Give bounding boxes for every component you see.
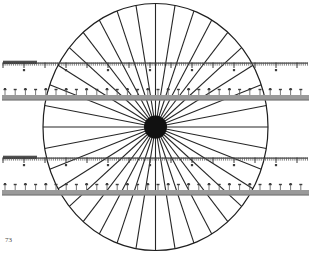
ruler-label-dot xyxy=(188,183,190,185)
ruler-tick-cap xyxy=(55,184,58,185)
ruler-label-dot xyxy=(290,183,292,185)
ruler-label-dot xyxy=(147,88,149,90)
ruler-tick-cap xyxy=(14,89,17,90)
ruler-label-dot xyxy=(233,164,235,166)
ruler-label-dot xyxy=(23,69,25,71)
ruler-tick-cap xyxy=(157,89,160,90)
ruler-tick-cap xyxy=(238,89,241,90)
ruler-label-dot xyxy=(167,183,169,185)
figure-page: 73 xyxy=(0,0,311,254)
ruler-tick-cap xyxy=(95,89,98,90)
ruler-label-dot xyxy=(65,88,67,90)
ruler-tick-cap xyxy=(55,89,58,90)
ruler-label-dot xyxy=(4,88,6,90)
ruler-label-dot xyxy=(249,88,251,90)
ruler-tick-cap xyxy=(259,184,262,185)
ruler-label-dot xyxy=(191,164,193,166)
ruler-label-dot xyxy=(228,88,230,90)
ruler-tick-cap xyxy=(177,89,180,90)
ruler-label-dot xyxy=(86,183,88,185)
ruler-label-dot xyxy=(233,69,235,71)
ruler-tick-cap xyxy=(34,89,37,90)
ruler-label-dot xyxy=(65,164,67,166)
ruler-label-dot xyxy=(149,164,151,166)
ruler-label-dot xyxy=(208,88,210,90)
ruler-label-dot xyxy=(24,183,26,185)
ruler-label-dot xyxy=(275,69,277,71)
ruler-tick-cap xyxy=(34,184,37,185)
ruler-tick-cap xyxy=(259,89,262,90)
ruler-label-dot xyxy=(269,88,271,90)
ruler-label-dot xyxy=(275,164,277,166)
ruler-tick-cap xyxy=(279,89,282,90)
ruler-tick-cap xyxy=(75,89,78,90)
ruler-tick-cap xyxy=(299,184,302,185)
ruler-tick-cap xyxy=(116,184,119,185)
ruler-label-dot xyxy=(106,183,108,185)
illusion-figure xyxy=(0,0,311,254)
ruler-tick-cap xyxy=(95,184,98,185)
ruler-label-dot xyxy=(24,88,26,90)
ruler-label-dot xyxy=(45,183,47,185)
ruler-tick-cap xyxy=(14,184,17,185)
ruler-tick-cap xyxy=(238,184,241,185)
ruler-label-dot xyxy=(86,88,88,90)
page-number: 73 xyxy=(5,236,12,245)
ruler-label-dot xyxy=(269,183,271,185)
ruler-label-dot xyxy=(126,88,128,90)
ruler-label-dot xyxy=(167,88,169,90)
ruler-label-dot xyxy=(45,88,47,90)
ruler-label-dot xyxy=(107,164,109,166)
ruler-gray-bar-edge xyxy=(2,195,309,196)
ruler-tick-cap xyxy=(75,184,78,185)
ruler-baseline xyxy=(3,158,308,159)
ruler-gray-bar-edge xyxy=(2,100,309,101)
ruler-tick-cap xyxy=(218,184,221,185)
ruler-label-dot xyxy=(208,183,210,185)
ruler-tick-cap xyxy=(299,89,302,90)
ruler-label-dot xyxy=(65,69,67,71)
ruler-label-dot xyxy=(228,183,230,185)
ruler-tick-cap xyxy=(157,184,160,185)
ruler-tick-cap xyxy=(136,184,139,185)
ruler-baseline xyxy=(3,63,308,64)
ruler-label-dot xyxy=(65,183,67,185)
ruler-tick-cap xyxy=(218,89,221,90)
ruler-label-dot xyxy=(290,88,292,90)
central-hub xyxy=(144,116,167,139)
ruler-tick-cap xyxy=(136,89,139,90)
ruler-tick-cap xyxy=(197,184,200,185)
ruler-label-dot xyxy=(126,183,128,185)
ruler-tick-cap xyxy=(116,89,119,90)
ruler-label-dot xyxy=(249,183,251,185)
ruler-tick-cap xyxy=(177,184,180,185)
ruler-label-dot xyxy=(4,183,6,185)
ruler-label-dot xyxy=(147,183,149,185)
ruler-label-dot xyxy=(191,69,193,71)
ruler-tick-cap xyxy=(197,89,200,90)
ruler-tick-cap xyxy=(279,184,282,185)
ruler-label-dot xyxy=(23,164,25,166)
ruler-label-dot xyxy=(149,69,151,71)
ruler-label-dot xyxy=(188,88,190,90)
ruler-label-dot xyxy=(107,69,109,71)
ruler-label-dot xyxy=(106,88,108,90)
